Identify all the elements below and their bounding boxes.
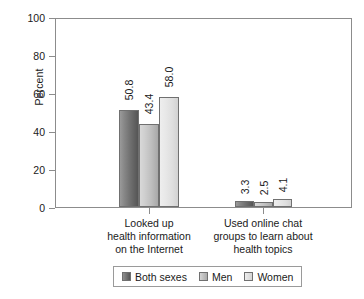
bar-chart-figure: Percent 100 80 60 40 20 0 50.8 43.4 58.0…	[0, 0, 364, 299]
bar-group1-women	[159, 97, 179, 207]
x-axis-label-group1: Looked up health information on the Inte…	[87, 217, 211, 257]
x-axis-label-group2-line2: groups to learn about	[196, 230, 330, 243]
y-tick-label-40: 40	[0, 125, 45, 139]
legend-label-men: Men	[212, 271, 232, 283]
x-axis-label-group1-line2: health information	[87, 230, 211, 243]
y-tick-mark-40	[49, 132, 55, 133]
legend-entry-women[interactable]: Women	[244, 271, 293, 283]
y-tick-mark-100	[49, 18, 55, 19]
x-tick-mark-2	[263, 208, 264, 214]
y-tick-label-100: 100	[0, 11, 45, 25]
bar-value-label-group2-men: 2.5	[258, 171, 270, 205]
legend-entry-men[interactable]: Men	[199, 271, 232, 283]
x-tick-mark-1	[149, 208, 150, 214]
bar-value-label-group2-both-sexes: 3.3	[239, 170, 251, 204]
bar-value-label-group1-women: 58.0	[163, 60, 175, 94]
bar-group1-both-sexes	[119, 110, 139, 207]
x-axis-label-group1-line1: Looked up	[87, 217, 211, 230]
y-tick-mark-0	[49, 208, 55, 209]
x-axis-label-group2: Used online chat groups to learn about h…	[196, 217, 330, 257]
legend-entry-both-sexes[interactable]: Both sexes	[122, 271, 187, 283]
x-axis-label-group2-line3: health topics	[196, 243, 330, 256]
legend-label-women: Women	[257, 271, 293, 283]
y-tick-mark-80	[49, 56, 55, 57]
legend-swatch-women-icon	[244, 272, 253, 281]
x-axis-label-group1-line3: on the Internet	[87, 243, 211, 256]
plot-area	[55, 18, 352, 208]
chart-legend: Both sexes Men Women	[113, 266, 302, 287]
legend-label-both-sexes: Both sexes	[135, 271, 187, 283]
legend-swatch-men-icon	[199, 272, 208, 281]
x-axis-label-group2-line1: Used online chat	[196, 217, 330, 230]
legend-swatch-both-sexes-icon	[122, 272, 131, 281]
bar-value-label-group2-women: 4.1	[277, 168, 289, 202]
y-tick-mark-20	[49, 170, 55, 171]
bar-group1-men	[139, 124, 159, 207]
bar-value-label-group1-men: 43.4	[143, 87, 155, 121]
y-tick-label-80: 80	[0, 49, 45, 63]
y-tick-label-20: 20	[0, 163, 45, 177]
bar-value-label-group1-both-sexes: 50.8	[123, 73, 135, 107]
y-tick-label-0: 0	[0, 201, 45, 215]
y-tick-label-60: 60	[0, 87, 45, 101]
y-tick-mark-60	[49, 94, 55, 95]
